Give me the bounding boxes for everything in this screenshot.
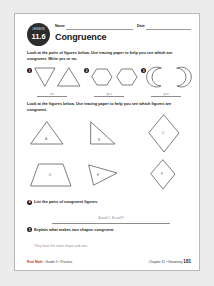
page-title: Congruence	[55, 32, 107, 42]
instruction-2: Look at the figures below. Use tracing p…	[27, 101, 191, 113]
instruction-1: Look at the pairs of figures below. Use …	[27, 50, 191, 62]
name-field[interactable]: Name	[55, 24, 133, 30]
figure-E: E	[85, 156, 145, 198]
figure-B-label: B	[98, 138, 100, 142]
instruction-1-lead: Look	[27, 50, 36, 55]
footer-right: Chapter 11 • Geometry 181	[149, 259, 191, 264]
problem-3-answer-text: yes	[151, 92, 181, 96]
triangle-down-icon	[33, 65, 83, 89]
problem-3: 3 yes	[141, 65, 197, 99]
figure-E-label: E	[97, 173, 99, 177]
lesson-badge: LESSON 11.6	[27, 23, 50, 46]
figure-D: D	[27, 156, 87, 198]
problem-2-answer[interactable]: yes	[94, 92, 124, 98]
figure-C-label: C	[162, 131, 164, 135]
problem-1-answer[interactable]: no	[37, 92, 67, 98]
figure-F-label: F	[161, 172, 163, 176]
hexagon-pair-icon	[90, 65, 140, 89]
instruction-2-rest: at the figures below. Use tracing paper …	[27, 101, 171, 112]
instruction-2-lead: Look	[27, 101, 36, 106]
figure-A-label: A	[45, 137, 47, 141]
figure-D-label: D	[49, 173, 51, 177]
date-rule	[146, 24, 191, 30]
name-rule	[66, 24, 133, 30]
footer-brand: Real Math	[27, 260, 43, 264]
figure-grid: A B C D	[27, 114, 191, 198]
figure-C: C	[143, 114, 203, 156]
footer-section: Practice	[61, 260, 73, 264]
name-label: Name	[55, 24, 65, 28]
figure-A: A	[27, 114, 87, 156]
question-4-text: List the pairs of congruent figures.	[34, 199, 191, 204]
problem-3-figures	[147, 65, 197, 89]
problem-2-figures	[90, 65, 140, 89]
problem-1: 1 no	[27, 65, 83, 99]
question-5-text: Explain what makes two shapes congruent.	[34, 227, 191, 232]
triangle-rotated-icon	[85, 156, 127, 190]
problem-2-answer-text: yes	[94, 92, 124, 96]
arc-pair-icon	[147, 65, 197, 89]
date-label: Date	[137, 24, 145, 28]
problem-3-answer[interactable]: yes	[151, 92, 181, 98]
date-field[interactable]: Date	[137, 24, 191, 30]
question-5: 5 Explain what makes two shapes congruen…	[27, 227, 191, 251]
footer-grade: Grade 5	[46, 260, 58, 264]
figure-B: B	[85, 114, 145, 156]
figure-row-1: A B C	[27, 114, 191, 156]
problem-2: 2 yes	[84, 65, 140, 99]
triangle-icon	[27, 114, 69, 148]
problem-1-figures	[33, 65, 83, 89]
question-4-number: 4	[27, 200, 32, 205]
figure-F: F	[143, 156, 203, 198]
right-triangle-icon	[85, 114, 127, 148]
footer-sep-3: •	[166, 260, 167, 264]
footer-page-number: 181	[183, 259, 191, 264]
question-block: 4 List the pairs of congruent figures. A…	[27, 199, 191, 251]
question-4-answer-text: A and C, B and F	[98, 216, 123, 220]
question-5-answer-text: They have the same shape and size.	[34, 244, 88, 248]
footer-left: Real Math • Grade 5 • Practice	[27, 260, 72, 264]
question-4: 4 List the pairs of congruent figures. A…	[27, 199, 191, 224]
instruction-1-rest: at the pairs of figures below. Use traci…	[27, 50, 172, 61]
problem-row: 1 no 2 yes	[27, 65, 191, 99]
worksheet-page: LESSON 11.6 Name Date Congruence Look at…	[14, 13, 200, 271]
worksheet-footer: Real Math • Grade 5 • Practice Chapter 1…	[27, 257, 191, 264]
footer-topic: Geometry	[168, 260, 182, 264]
rhombus-small-icon	[143, 156, 185, 192]
problem-1-number: 1	[27, 68, 32, 73]
worksheet-header: LESSON 11.6 Name Date Congruence	[27, 22, 191, 48]
question-5-answer[interactable]: They have the same shape and size.	[34, 233, 174, 251]
problem-2-number: 2	[84, 68, 89, 73]
question-5-number: 5	[27, 227, 32, 232]
worksheet-content: LESSON 11.6 Name Date Congruence Look at…	[27, 22, 191, 264]
name-date-row: Name Date	[55, 24, 191, 31]
question-4-answer[interactable]: A and C, B and F	[52, 205, 170, 224]
problem-1-answer-text: no	[37, 92, 67, 96]
footer-chapter: Chapter 11	[149, 260, 165, 264]
footer-sep-1: •	[44, 260, 45, 264]
footer-sep-2: •	[58, 260, 59, 264]
lesson-number: 11.6	[31, 33, 45, 41]
problem-3-number: 3	[141, 68, 146, 73]
figure-row-2: D E F	[27, 156, 191, 198]
